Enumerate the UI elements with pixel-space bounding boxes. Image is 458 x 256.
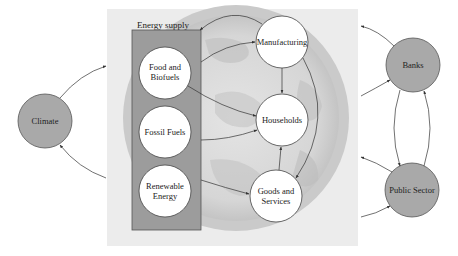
arrow-public-sector-to-banks bbox=[424, 91, 430, 166]
node-label: Renewable bbox=[146, 181, 184, 191]
node-label: Banks bbox=[402, 60, 423, 70]
node-climate: Climate bbox=[18, 94, 72, 148]
node-label: Climate bbox=[32, 116, 59, 126]
node-goods-and-services: Goods and Services bbox=[250, 170, 302, 222]
arrow-climate-to-economy bbox=[60, 66, 106, 98]
node-label: Energy bbox=[153, 191, 178, 201]
node-food-and-biofuels: Food and Biofuels bbox=[139, 47, 191, 99]
energy-supply-group: Energy supply Food and Biofuels Fossil F… bbox=[132, 20, 201, 230]
node-label: Manufacturing bbox=[257, 37, 308, 47]
node-label: Fossil Fuels bbox=[145, 127, 186, 137]
node-label: Biofuels bbox=[151, 72, 180, 82]
arrow-economy-to-banks bbox=[361, 80, 390, 96]
arrow-banks-to-public-sector bbox=[394, 90, 400, 166]
node-public-sector: Public Sector bbox=[385, 163, 439, 217]
node-banks: Banks bbox=[386, 38, 440, 92]
arrow-banks-to-economy bbox=[361, 26, 394, 46]
arrow-economy-to-climate bbox=[60, 145, 106, 178]
node-label: Services bbox=[262, 196, 291, 206]
node-label: Goods and bbox=[258, 186, 295, 196]
arrow-public-sector-to-economy bbox=[361, 157, 392, 172]
node-manufacturing: Manufacturing bbox=[256, 16, 308, 68]
node-label: Public Sector bbox=[389, 185, 435, 195]
node-renewable-energy: Renewable Energy bbox=[139, 165, 191, 217]
economy-energy-diagram: Energy supply Food and Biofuels Fossil F… bbox=[0, 0, 458, 256]
node-label: Households bbox=[262, 115, 302, 125]
node-label: Food and bbox=[149, 62, 182, 72]
arrow-economy-to-public-sector bbox=[361, 206, 390, 217]
node-fossil-fuels: Fossil Fuels bbox=[139, 106, 191, 158]
node-households: Households bbox=[256, 94, 308, 146]
energy-supply-label: Energy supply bbox=[137, 20, 190, 30]
